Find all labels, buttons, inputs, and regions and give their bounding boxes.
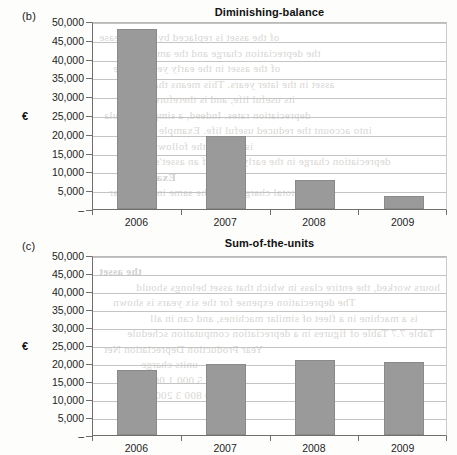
chart-title-b: Diminishing-balance <box>92 6 447 18</box>
x-axis-label-2009: 2009 <box>391 216 414 228</box>
x-axis-tick-mark <box>92 210 93 215</box>
x-axis-label-2007: 2007 <box>213 442 236 454</box>
x-axis-tick-mark <box>446 210 447 215</box>
x-axis-label-2009: 2009 <box>391 442 414 454</box>
x-axis-tick-mark <box>270 436 271 441</box>
panel-label-c: (c) <box>22 240 35 252</box>
y-axis-tick-label: 20,000 <box>52 358 84 370</box>
y-axis-tick-label: 5,000 <box>58 412 84 424</box>
y-axis-tick-label: 15,000 <box>52 376 84 388</box>
y-axis-tick-label: – <box>78 204 84 216</box>
figure-diminishing-balance: (b) Diminishing-balance 50,00045,00040,0… <box>0 0 457 232</box>
y-axis-b: 50,00045,00040,00035,00030,00025,000€20,… <box>0 22 92 210</box>
y-axis-tick-label: 10,000 <box>52 166 84 178</box>
x-axis-tick-mark <box>446 436 447 441</box>
bar-2009 <box>384 196 424 209</box>
y-axis-currency-symbol: € <box>22 340 28 352</box>
panel-label-b: (b) <box>22 10 36 22</box>
chart-title-c: Sum-of-the-units <box>92 237 447 249</box>
bar-2008 <box>295 180 335 209</box>
y-axis-tick-label: 5,000 <box>58 185 84 197</box>
y-axis-tick-label: 30,000 <box>52 322 84 334</box>
y-axis-tick-label: 30,000 <box>52 91 84 103</box>
x-axis-label-2008: 2008 <box>302 442 325 454</box>
y-axis-tick-label: 50,000 <box>52 16 84 28</box>
y-axis-c: 50,00045,00040,00035,00030,00025,000€20,… <box>0 256 92 436</box>
bar-2009 <box>384 362 424 435</box>
bar-2006 <box>117 29 157 209</box>
x-axis-b: 2006200720082009 <box>92 210 447 232</box>
bar-2007 <box>206 364 246 435</box>
x-axis-label-2008: 2008 <box>302 216 325 228</box>
bar-2008 <box>295 360 335 435</box>
x-axis-tick-mark <box>358 210 359 215</box>
x-axis-label-2006: 2006 <box>125 216 148 228</box>
y-axis-tick-label: 50,000 <box>52 250 84 262</box>
figure-sum-of-the-units: (c) Sum-of-the-units 50,00045,00040,0003… <box>0 232 457 455</box>
y-axis-currency-symbol: € <box>22 110 28 122</box>
bar-2007 <box>206 136 246 209</box>
y-axis-tick-label: 35,000 <box>52 304 84 316</box>
plot-area-b: of the asset is replaced by the increase… <box>92 22 447 210</box>
plot-area-c: the assethours worked, the entire class … <box>92 256 447 436</box>
x-axis-c: 2006200720082009 <box>92 436 447 455</box>
bars-c <box>93 257 446 435</box>
y-axis-tick-label: – <box>78 430 84 442</box>
y-axis-tick-label: 40,000 <box>52 54 84 66</box>
y-axis-tick-label: 40,000 <box>52 286 84 298</box>
y-axis-tick-label: 10,000 <box>52 394 84 406</box>
y-axis-tick-label: 25,000 <box>52 340 84 352</box>
x-axis-tick-mark <box>92 436 93 441</box>
x-axis-tick-mark <box>181 210 182 215</box>
y-axis-tick-label: 35,000 <box>52 72 84 84</box>
x-axis-tick-mark <box>270 210 271 215</box>
y-axis-tick-label: 25,000 <box>52 110 84 122</box>
x-axis-label-2007: 2007 <box>213 216 236 228</box>
bars-b <box>93 23 446 209</box>
x-axis-tick-mark <box>181 436 182 441</box>
bar-2006 <box>117 370 157 435</box>
y-axis-tick-label: 20,000 <box>52 129 84 141</box>
x-axis-tick-mark <box>358 436 359 441</box>
y-axis-tick-label: 45,000 <box>52 35 84 47</box>
x-axis-label-2006: 2006 <box>125 442 148 454</box>
y-axis-tick-label: 15,000 <box>52 148 84 160</box>
y-axis-tick-label: 45,000 <box>52 268 84 280</box>
